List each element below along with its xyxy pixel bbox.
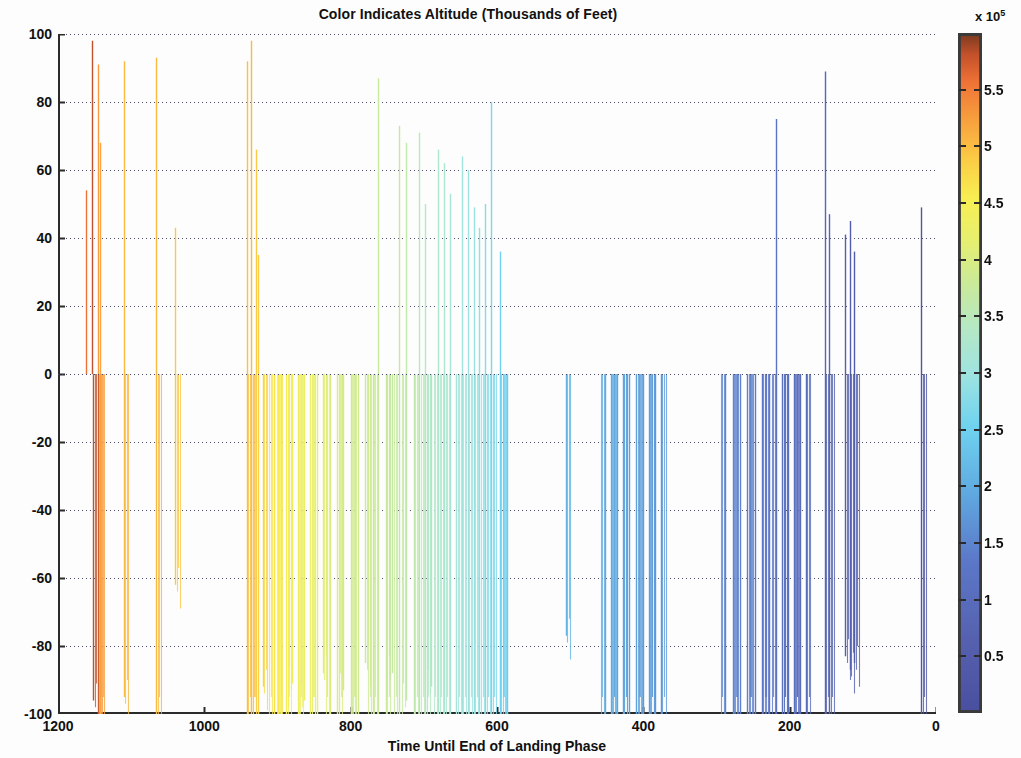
- y-tick-label: 80: [6, 94, 52, 110]
- colorbar-tick-mark: [959, 259, 966, 261]
- colorbar-tick-mark: [974, 145, 981, 147]
- colorbar-tick-mark: [974, 485, 981, 487]
- colorbar-tick-mark: [974, 315, 981, 317]
- colorbar-tick-mark: [959, 89, 966, 91]
- y-tick-label: 20: [6, 298, 52, 314]
- chart-figure: Color Indicates Altitude (Thousands of F…: [0, 0, 1021, 758]
- x-tick-label: 800: [339, 718, 362, 734]
- colorbar-tick-label: 0.5: [984, 648, 1003, 664]
- colorbar-tick-mark: [974, 259, 981, 261]
- colorbar-tick-mark: [959, 372, 966, 374]
- y-tick-label: -60: [6, 570, 52, 586]
- colorbar-tick-mark: [974, 372, 981, 374]
- colorbar-tick-mark: [974, 89, 981, 91]
- x-axis-label: Time Until End of Landing Phase: [58, 738, 936, 754]
- y-tick-label: 0: [6, 366, 52, 382]
- colorbar-tick-mark: [959, 429, 966, 431]
- colorbar-tick-mark: [974, 429, 981, 431]
- colorbar-exponent-label: x 105: [975, 8, 1005, 24]
- y-tick-label: 100: [6, 26, 52, 42]
- colorbar-tick-label: 2: [984, 478, 992, 494]
- colorbar-tick-mark: [974, 599, 981, 601]
- colorbar-tick-mark: [974, 542, 981, 544]
- x-tick-label: 200: [778, 718, 801, 734]
- colorbar-tick-mark: [959, 145, 966, 147]
- y-tick-label: -20: [6, 434, 52, 450]
- colorbar-tick-label: 4.5: [984, 195, 1003, 211]
- colorbar-tick-label: 3: [984, 365, 992, 381]
- colorbar-tick-mark: [959, 655, 966, 657]
- x-tick-label: 1000: [189, 718, 220, 734]
- colorbar-multiplier-text: x 10: [975, 9, 1000, 24]
- chart-title: Color Indicates Altitude (Thousands of F…: [0, 6, 936, 22]
- colorbar-tick-mark: [959, 485, 966, 487]
- y-tick-label: -40: [6, 502, 52, 518]
- colorbar-tick-mark: [959, 542, 966, 544]
- colorbar-tick-label: 1.5: [984, 535, 1003, 551]
- y-tick-label: -80: [6, 638, 52, 654]
- colorbar-tick-mark: [959, 315, 966, 317]
- colorbar-tick-mark: [974, 202, 981, 204]
- colorbar-tick-label: 2.5: [984, 422, 1003, 438]
- colorbar-tick-mark: [959, 202, 966, 204]
- x-tick-label: 0: [932, 718, 940, 734]
- colorbar-tick-label: 5.5: [984, 82, 1003, 98]
- x-tick-label: 600: [485, 718, 508, 734]
- y-tick-label: 60: [6, 162, 52, 178]
- colorbar-tick-mark: [959, 599, 966, 601]
- colorbar-exponent-text: 5: [1000, 8, 1005, 18]
- colorbar-tick-label: 4: [984, 252, 992, 268]
- colorbar-tick-label: 5: [984, 138, 992, 154]
- colorbar-tick-mark: [974, 655, 981, 657]
- x-axis-ticks: 120010008006004002000: [58, 718, 936, 738]
- colorbar-tick-label: 1: [984, 592, 992, 608]
- colorbar: 0.511.522.533.544.555.5: [958, 33, 982, 713]
- y-axis-ticks: 100806040200-20-40-60-80-100: [0, 34, 52, 714]
- x-tick-label: 400: [632, 718, 655, 734]
- plot-canvas: [58, 34, 936, 714]
- x-tick-label: 1200: [42, 718, 73, 734]
- y-tick-label: 40: [6, 230, 52, 246]
- colorbar-tick-label: 3.5: [984, 308, 1003, 324]
